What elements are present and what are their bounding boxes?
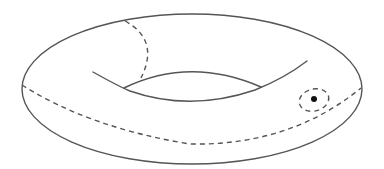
- inner-hole-upper-curve: [124, 72, 261, 88]
- torus-diagram: [0, 0, 384, 169]
- outer-boundary: [22, 14, 362, 164]
- longitude-loop: [22, 85, 361, 144]
- inner-hole-lower-curve: [93, 61, 307, 101]
- meridian-loop: [125, 21, 148, 78]
- marked-point: [311, 96, 317, 102]
